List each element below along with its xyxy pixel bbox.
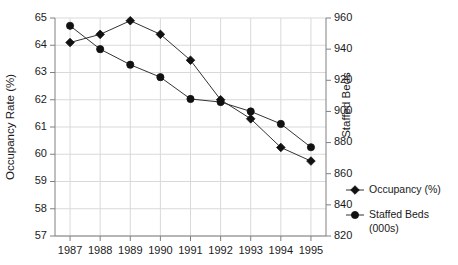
y-tick-label-left: 63 <box>35 65 47 77</box>
x-tick-label: 1989 <box>118 244 142 256</box>
legend-label-staffed-beds-units: (000s) <box>369 222 399 234</box>
diamond-marker <box>351 186 360 195</box>
y-axis-title-right: Staffed Beds <box>340 72 352 138</box>
y-tick-label-right: 960 <box>334 11 352 23</box>
occupancy-staffed-beds-chart: 5758596061626364658208408608809009209409… <box>0 0 458 265</box>
y-tick-label-left: 59 <box>35 174 47 186</box>
circle-marker <box>66 22 73 29</box>
circle-marker <box>97 46 104 53</box>
x-tick-label: 1995 <box>299 244 323 256</box>
x-tick-label: 1993 <box>238 244 262 256</box>
y-tick-label-left: 62 <box>35 93 47 105</box>
circle-marker <box>187 95 194 102</box>
y-tick-label-left: 60 <box>35 147 47 159</box>
y-tick-label-right: 840 <box>334 198 352 210</box>
x-tick-label: 1987 <box>58 244 82 256</box>
y-axis-title-left: Occupancy Rate (%) <box>4 74 16 180</box>
circle-marker <box>157 74 164 81</box>
diamond-marker <box>96 30 105 39</box>
y-tick-label-right: 940 <box>334 42 352 54</box>
circle-marker <box>307 144 314 151</box>
legend-label-occupancy: Occupancy (%) <box>369 183 441 195</box>
legend-label-staffed-beds: Staffed Beds <box>369 208 429 220</box>
x-tick-label: 1994 <box>269 244 293 256</box>
y-tick-label-right: 820 <box>334 229 352 241</box>
circle-marker <box>351 211 358 218</box>
circle-marker <box>277 120 284 127</box>
y-tick-label-left: 65 <box>35 11 47 23</box>
diamond-marker <box>307 157 316 166</box>
chart-canvas: 5758596061626364658208408608809009209409… <box>0 0 458 265</box>
circle-marker <box>247 108 254 115</box>
x-tick-label: 1990 <box>148 244 172 256</box>
y-tick-label-right: 860 <box>334 167 352 179</box>
x-tick-label: 1992 <box>208 244 232 256</box>
y-tick-label-left: 58 <box>35 202 47 214</box>
y-tick-label-left: 61 <box>35 120 47 132</box>
y-tick-label-left: 57 <box>35 229 47 241</box>
x-tick-label: 1988 <box>88 244 112 256</box>
x-tick-label: 1991 <box>178 244 202 256</box>
circle-marker <box>217 98 224 105</box>
circle-marker <box>127 61 134 68</box>
y-tick-label-left: 64 <box>35 38 47 50</box>
